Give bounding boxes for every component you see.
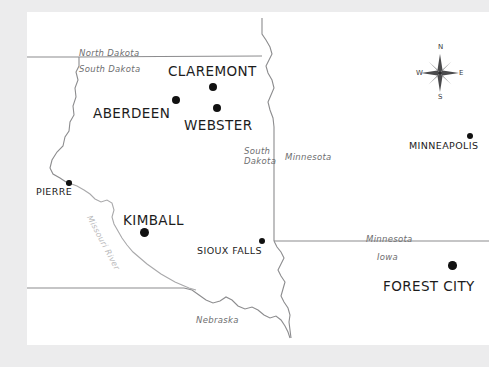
state-label-south-dakota-east: SouthDakota (244, 147, 270, 167)
city-label-claremont[interactable]: CLAREMONT (168, 63, 257, 79)
city-label-kimball[interactable]: KIMBALL (123, 212, 184, 228)
city-label-webster[interactable]: WEBSTER (184, 117, 252, 133)
map-geometry (0, 0, 489, 367)
city-label-sioux-falls[interactable]: SIOUX FALLS (197, 245, 262, 256)
border-south-dakota-minnesota (262, 18, 274, 241)
city-label-pierre[interactable]: PIERRE (36, 186, 72, 197)
city-dot-aberdeen[interactable] (172, 96, 180, 104)
state-label-nebraska: Nebraska (196, 315, 239, 325)
state-label-north-dakota: North Dakota (79, 48, 140, 58)
border-north-dakota-south-dakota (27, 56, 262, 57)
state-label-minnesota-west: Minnesota (285, 152, 332, 162)
border-south-dakota-iowa (274, 241, 291, 338)
city-dot-kimball[interactable] (140, 228, 149, 237)
city-label-minneapolis[interactable]: MINNEAPOLIS (409, 140, 478, 151)
compass-south-label: S (438, 93, 442, 101)
compass-west-label: W (416, 69, 423, 77)
state-label-south-dakota-north: South Dakota (79, 64, 140, 74)
city-dot-sioux-falls[interactable] (259, 238, 265, 244)
compass-north-label: N (438, 43, 443, 51)
border-nebraska-iowa (184, 288, 290, 338)
city-dot-minneapolis[interactable] (467, 133, 473, 139)
compass-rose-star (421, 54, 459, 92)
city-label-aberdeen[interactable]: ABERDEEN (93, 105, 170, 121)
city-dot-forest-city[interactable] (448, 261, 457, 270)
compass-east-label: E (459, 69, 463, 77)
river-missouri (69, 183, 196, 290)
city-dot-pierre[interactable] (66, 180, 72, 186)
border-south-dakota-west (50, 57, 79, 183)
state-label-minnesota-south: Minnesota (366, 234, 413, 244)
map-figure: N E S W North Dakota South Dakota SouthD… (0, 0, 489, 367)
city-label-forest-city[interactable]: FOREST CITY (383, 278, 475, 294)
city-dot-webster[interactable] (213, 104, 221, 112)
city-dot-claremont[interactable] (209, 83, 217, 91)
state-label-iowa: Iowa (377, 252, 398, 262)
